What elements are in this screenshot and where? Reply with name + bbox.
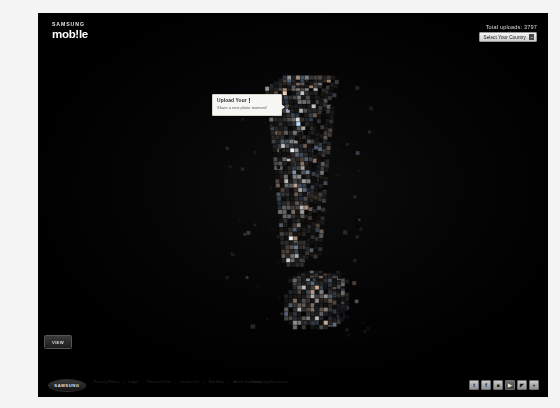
footer-link[interactable]: Privacy Policy [94,380,119,384]
chevron-down-icon [529,34,534,40]
view-button-label: VIEW [52,340,64,345]
app-stage: SAMSUNG mob!le Total uploads: 3797 Selec… [38,13,548,397]
social-icon-bar: tf■▶◤+ [469,380,539,390]
youtube-icon[interactable]: ▶ [505,380,515,390]
youtube-icon-glyph: ▶ [508,383,512,388]
rss-icon-glyph: ◤ [520,383,524,388]
footer-link[interactable]: Site Map [208,380,224,384]
callout-title: Upload Your ! [217,98,277,104]
total-uploads-label: Total uploads: 3797 [486,24,537,30]
page-root: SAMSUNG mob!le Total uploads: 3797 Selec… [0,0,560,408]
footer-link-separator: | [142,380,143,384]
footer-link[interactable]: Contact Us [179,380,199,384]
samsung-logo-text: SAMSUNG [54,383,79,388]
brand-mobile-text: mob!le [52,29,88,41]
rss-icon[interactable]: ◤ [517,380,527,390]
footer-links: Privacy Policy|Legal|Terms of Use|Contac… [94,380,261,384]
flickr-icon-glyph: ■ [496,383,499,388]
callout-title-text: Upload Your [217,98,248,103]
upload-callout[interactable]: Upload Your ! Share a new photo moment! [212,94,282,116]
samsung-mobile-logo: SAMSUNG mob!le [52,22,88,41]
share-icon-glyph: + [533,383,536,388]
callout-subtitle: Share a new photo moment! [217,106,277,111]
callout-exclamation-icon: ! [248,97,250,104]
footer-copyright: Samsung Electronics [252,380,288,384]
select-country-label: Select Your Country [483,35,526,40]
flickr-icon[interactable]: ■ [493,380,503,390]
footer-link-separator: | [174,380,175,384]
facebook-icon-glyph: f [485,383,487,388]
brand-samsung-text: SAMSUNG [52,22,88,27]
view-button[interactable]: VIEW [44,335,72,349]
samsung-logo: SAMSUNG [48,379,86,392]
footer-bar: SAMSUNG Privacy Policy|Legal|Terms of Us… [38,375,548,397]
stage-backdrop [38,13,548,397]
footer-link[interactable]: Legal [128,380,138,384]
twitter-icon[interactable]: t [469,380,479,390]
twitter-icon-glyph: t [473,383,475,388]
footer-link-separator: | [228,380,229,384]
facebook-icon[interactable]: f [481,380,491,390]
footer-link-separator: | [203,380,204,384]
select-country-button[interactable]: Select Your Country [479,32,537,42]
share-icon[interactable]: + [529,380,539,390]
callout-pointer [281,104,285,110]
footer-link-separator: | [123,380,124,384]
footer-link[interactable]: Terms of Use [147,380,171,384]
